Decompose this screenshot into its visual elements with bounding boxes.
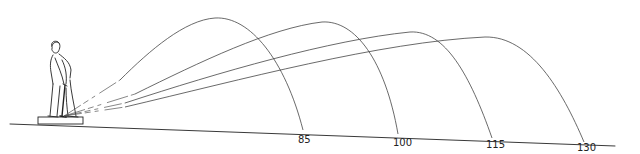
distance-label-115: 115: [486, 139, 505, 150]
trajectory-100: [135, 22, 398, 134]
ground-line: [10, 124, 615, 146]
distance-label-85: 85: [298, 134, 311, 145]
trajectory-85: [120, 18, 303, 130]
trajectory-115: [125, 32, 492, 138]
distance-label-130: 130: [577, 142, 596, 153]
trajectory-diagram: 85 100 115 130: [0, 0, 640, 154]
hitting-mat: [38, 117, 83, 124]
trajectory-130: [125, 37, 584, 142]
distance-label-100: 100: [393, 137, 412, 148]
golfer-figure-icon: [48, 41, 78, 117]
